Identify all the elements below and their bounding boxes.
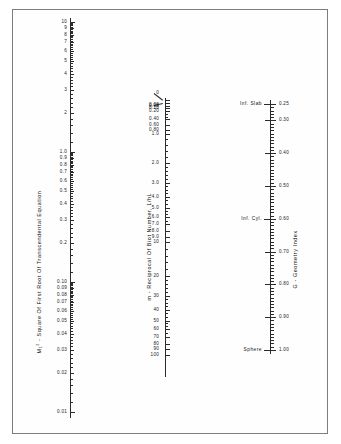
left-axis-minor-tick <box>71 155 73 156</box>
right-axis-minor-tick <box>271 330 274 331</box>
right-axis-minor-tick <box>271 320 274 321</box>
left-axis-minor-tick <box>71 47 73 48</box>
right-axis-minor-tick <box>271 124 274 125</box>
middle-axis-tick-label: 50 <box>153 318 159 323</box>
middle-axis-minor-tick <box>166 313 168 314</box>
middle-axis-minor-tick <box>166 214 168 215</box>
right-axis-minor-tick <box>271 304 274 305</box>
left-axis-minor-tick <box>71 287 73 288</box>
right-axis-marker-tick <box>264 104 270 105</box>
right-axis-minor-tick <box>271 216 274 217</box>
middle-axis-tick <box>166 231 170 232</box>
right-axis-minor-tick <box>271 160 274 161</box>
right-axis-minor-tick <box>271 229 274 230</box>
left-axis-minor-tick <box>71 171 73 172</box>
left-axis-tick <box>71 373 74 374</box>
left-axis-tick-label: 0.06 <box>57 309 67 314</box>
left-axis-minor-tick <box>71 328 73 329</box>
left-axis-tick <box>71 42 74 43</box>
left-axis-tick <box>71 204 74 205</box>
left-axis-minor-tick <box>71 175 73 176</box>
left-axis-tick <box>71 35 74 36</box>
left-axis-minor-tick <box>71 187 73 188</box>
middle-axis-minor-tick <box>166 269 168 270</box>
left-axis-tick <box>71 334 74 335</box>
left-axis-tick <box>71 113 74 114</box>
left-axis-minor-tick <box>71 292 73 293</box>
left-axis-minor-tick <box>71 37 73 38</box>
left-axis-minor-tick <box>71 57 73 58</box>
left-axis-tick-label: 2 <box>64 111 67 116</box>
right-axis-minor-tick <box>271 127 274 128</box>
middle-axis-tick-label: 3.0 <box>152 180 159 185</box>
left-axis-minor-tick <box>71 162 73 163</box>
left-axis-tick-label: 0.6 <box>60 179 67 184</box>
left-axis-tick-label: 0.03 <box>57 348 67 353</box>
left-axis-minor-tick <box>71 166 73 167</box>
right-axis-minor-tick <box>271 183 274 184</box>
right-axis-minor-tick <box>271 275 274 276</box>
left-axis-minor-tick <box>71 174 73 175</box>
left-axis-tick <box>71 28 74 29</box>
left-axis-tick <box>71 302 74 303</box>
left-axis-tick-label: 1.0 <box>60 150 67 155</box>
left-axis-tick <box>71 74 74 75</box>
right-axis-tick-label: 0.70 <box>279 249 289 254</box>
right-axis-tick <box>271 252 276 253</box>
right-axis-minor-tick <box>271 255 274 256</box>
right-axis-minor-tick <box>271 143 274 144</box>
left-axis-tick-label: 0.08 <box>57 292 67 297</box>
left-axis-minor-tick <box>71 337 73 338</box>
right-axis-minor-tick <box>271 238 274 239</box>
left-axis-minor-tick <box>71 249 73 250</box>
left-axis-minor-tick <box>71 55 73 56</box>
right-axis-minor-tick <box>271 166 274 167</box>
right-axis-minor-tick <box>271 258 274 259</box>
right-axis-minor-tick <box>271 196 274 197</box>
left-axis-minor-tick <box>71 331 73 332</box>
right-axis-tick <box>271 120 276 121</box>
middle-axis-minor-tick <box>166 204 168 205</box>
middle-axis-tick <box>166 337 170 338</box>
right-axis-minor-tick <box>271 232 274 233</box>
middle-axis-tick <box>166 125 170 126</box>
left-axis-minor-tick <box>71 24 73 25</box>
left-axis-tick-label: 0.07 <box>57 300 67 305</box>
middle-axis-tick-label: 70 <box>153 335 159 340</box>
left-axis-tick <box>71 321 74 322</box>
left-axis-minor-tick <box>71 163 73 164</box>
left-axis-minor-tick <box>71 297 73 298</box>
right-axis-minor-tick <box>271 150 274 151</box>
left-axis-minor-tick <box>71 161 73 162</box>
left-axis-minor-tick <box>71 31 73 32</box>
left-axis-minor-tick <box>71 169 73 170</box>
right-axis-minor-tick <box>271 147 274 148</box>
left-axis-minor-tick <box>71 80 73 81</box>
left-axis-minor-tick <box>71 167 73 168</box>
middle-axis-tick <box>166 130 170 131</box>
left-axis-minor-tick <box>71 29 73 30</box>
middle-axis-minor-tick <box>166 292 168 293</box>
left-axis-minor-tick <box>71 291 73 292</box>
left-axis-minor-tick <box>71 107 73 108</box>
middle-axis-minor-tick <box>166 323 168 324</box>
left-axis-minor-tick <box>71 326 73 327</box>
left-axis-minor-tick <box>71 154 73 155</box>
middle-axis-tick <box>166 276 170 277</box>
middle-axis-tick <box>166 237 170 238</box>
middle-axis-minor-tick <box>166 179 168 180</box>
left-axis-minor-tick <box>71 41 73 42</box>
left-axis-minor-tick <box>71 183 73 184</box>
right-axis-tick <box>265 153 270 154</box>
right-axis-tick-label: 1.00 <box>279 348 289 353</box>
middle-axis-minor-tick <box>166 193 168 194</box>
right-axis-marker-tick <box>264 219 270 220</box>
left-axis-tick-label: 0.7 <box>60 170 67 175</box>
left-axis-minor-tick <box>71 237 73 238</box>
left-axis-minor-tick <box>71 23 73 24</box>
middle-axis-tick <box>166 119 170 120</box>
right-axis-minor-tick <box>271 156 274 157</box>
middle-axis-tick <box>166 349 170 350</box>
middle-axis-minor-tick <box>166 249 168 250</box>
left-axis-tick-label: 0.3 <box>60 218 67 223</box>
